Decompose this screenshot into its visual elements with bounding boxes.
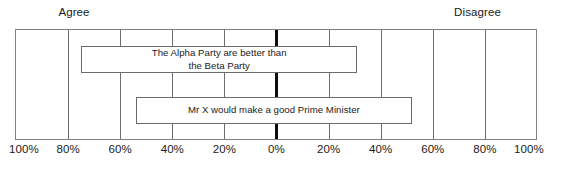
tick-label-3: 40% [161,143,184,155]
tick-label-7: 40% [369,143,392,155]
tick-label-4: 20% [213,143,236,155]
gridline-1 [68,30,69,139]
disagree-side-header: Disagree [276,6,561,18]
tick-label-5: 0% [268,143,285,155]
gridline-8 [433,30,434,139]
bar-2: Mr X would make a good Prime Minister [136,97,412,124]
bar-label-2: Mr X would make a good Prime Minister [184,104,364,117]
diverging-bar-chart: Agree Disagree The Alpha Party are bette… [0,0,561,169]
bar-label-1: The Alpha Party are better than the Beta… [148,47,291,72]
tick-label-6: 20% [317,143,340,155]
bar-1: The Alpha Party are better than the Beta… [81,46,357,73]
plot-area: The Alpha Party are better than the Beta… [15,29,537,140]
agree-side-header: Agree [0,6,276,18]
tick-label-10: 100% [514,143,544,155]
tick-label-2: 60% [109,143,132,155]
tick-label-9: 80% [473,143,496,155]
tick-label-1: 80% [56,143,79,155]
tick-label-0: 100% [9,143,39,155]
tick-label-8: 60% [421,143,444,155]
gridline-9 [485,30,486,139]
x-axis-tick-labels: 100%80%60%40%20%0%20%40%60%80%100% [0,143,561,163]
